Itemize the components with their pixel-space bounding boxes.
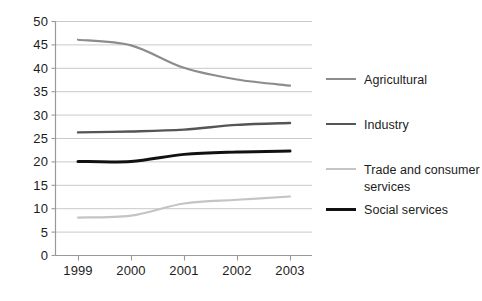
gridlines — [56, 22, 313, 256]
legend-item-social-services[interactable]: Social services — [326, 202, 448, 219]
y-tick-label-15: 15 — [14, 179, 48, 192]
legend-label: Trade and consumer services — [364, 162, 480, 196]
series-line-agricultural — [78, 40, 290, 86]
x-tick-label-1999: 1999 — [55, 264, 101, 277]
x-tick-label-2002: 2002 — [214, 264, 260, 277]
y-tick-label-10: 10 — [14, 202, 48, 215]
legend-swatch-icon — [326, 123, 356, 125]
y-tick-label-25: 25 — [14, 132, 48, 145]
legend-item-industry[interactable]: Industry — [326, 117, 409, 134]
x-tick-label-2000: 2000 — [108, 264, 154, 277]
legend-swatch-icon — [326, 78, 356, 80]
series-line-social-services — [78, 151, 290, 162]
y-tick-label-50: 50 — [14, 15, 48, 28]
y-tick-label-5: 5 — [14, 226, 48, 239]
y-tick-label-35: 35 — [14, 85, 48, 98]
x-tick-label-2003: 2003 — [267, 264, 313, 277]
y-tick-label-20: 20 — [14, 155, 48, 168]
legend-item-trade-and-consumer-services[interactable]: Trade and consumer services — [326, 162, 480, 196]
x-tick-label-2001: 2001 — [161, 264, 207, 277]
y-tick-label-30: 30 — [14, 109, 48, 122]
legend-swatch-icon — [326, 208, 356, 211]
series-line-industry — [78, 123, 290, 132]
legend-item-agricultural[interactable]: Agricultural — [326, 72, 427, 89]
series-lines — [78, 40, 290, 218]
axis-ticks — [52, 22, 291, 261]
legend-label: Agricultural — [364, 72, 427, 89]
line-chart: 05101520253035404550 1999200020012002200… — [0, 0, 482, 301]
legend-swatch-icon — [326, 168, 356, 170]
plot-area — [0, 0, 482, 301]
series-line-trade-and-consumer-services — [78, 197, 290, 218]
legend-label: Social services — [364, 202, 448, 219]
y-tick-label-40: 40 — [14, 62, 48, 75]
y-tick-label-45: 45 — [14, 38, 48, 51]
legend-label: Industry — [364, 117, 409, 134]
y-tick-label-0: 0 — [14, 249, 48, 262]
